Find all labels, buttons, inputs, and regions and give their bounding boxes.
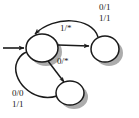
transition-label-bottom-to-left-line2: 1/1 [12,99,24,110]
transition-label-left-to-bottom: 0/* [57,56,69,66]
state-right[interactable] [91,36,119,62]
state-transition-diagram: 1/* 0/1 1/1 0/* 0/0 1/1 [0,0,139,118]
transition-label-right-to-left-line1: 0/1 [99,2,111,13]
transition-label-left-to-right: 1/* [60,23,72,33]
transition-label-right-to-left-line2: 1/1 [99,13,111,24]
transition-label-right-to-left: 0/1 1/1 [99,2,111,23]
transition-label-bottom-to-left-line1: 0/0 [12,88,24,99]
state-bottom[interactable] [56,81,84,105]
state-left[interactable] [26,34,58,62]
transition-label-bottom-to-left: 0/0 1/1 [12,88,24,109]
transition-left-to-right [58,45,89,46]
